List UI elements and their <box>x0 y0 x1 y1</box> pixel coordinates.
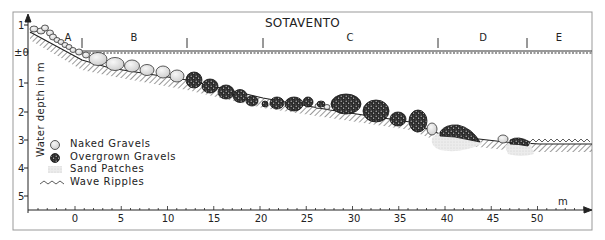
seabed-line <box>30 32 592 144</box>
zone-label-b: B <box>131 32 138 43</box>
x-tick-label: 10 <box>162 213 175 224</box>
zone-label-d: D <box>479 32 487 43</box>
x-tick-label: 25 <box>301 213 314 224</box>
x-tick-label: 45 <box>487 213 500 224</box>
overgrown-gravel-icon <box>51 154 60 163</box>
wave-ripples <box>530 139 590 142</box>
naked-gravels <box>30 25 508 143</box>
x-tick-label: 30 <box>348 213 361 224</box>
beach-profile-diagram: SOTAVENTO A B C D E 1 ±0 1 2 3 4 5 Water… <box>0 0 605 240</box>
water-surface <box>82 51 592 53</box>
figure-frame <box>13 12 592 230</box>
legend-label-wave-ripples: Wave Ripples <box>70 176 144 187</box>
y-tick-label: 1 <box>18 20 24 31</box>
x-axis-unit: m <box>558 196 568 207</box>
diagram-canvas <box>0 0 605 240</box>
y-tick-label: ±0 <box>14 47 29 58</box>
y-tick-label: 5 <box>18 191 24 202</box>
naked-gravel-icon <box>51 141 60 150</box>
x-axis-minor-ticks <box>38 206 584 210</box>
legend-label-overgrown-gravels: Overgrown Gravels <box>70 151 176 162</box>
x-tick-label: 5 <box>118 213 124 224</box>
y-axis <box>24 14 31 213</box>
overgrown-gravels <box>186 72 530 146</box>
sand-patch-icon <box>48 166 62 173</box>
seabed-hatch <box>30 32 592 152</box>
x-tick-label: 40 <box>441 213 454 224</box>
zone-dividers <box>82 38 527 48</box>
x-tick-label: 15 <box>208 213 221 224</box>
y-axis-label: Water depth in m <box>35 60 46 160</box>
figure-title: SOTAVENTO <box>0 16 605 30</box>
x-tick-label: 50 <box>531 213 544 224</box>
x-tick-label: 0 <box>72 213 78 224</box>
y-tick-label: 2 <box>18 107 24 118</box>
legend-label-naked-gravels: Naked Gravels <box>70 138 151 149</box>
y-tick-label: 1 <box>18 78 24 89</box>
zone-label-c: C <box>347 32 354 43</box>
wave-ripple-icon <box>40 181 64 184</box>
y-tick-label: 3 <box>18 135 24 146</box>
legend-label-sand-patches: Sand Patches <box>70 163 144 174</box>
x-tick-label: 35 <box>394 213 407 224</box>
zone-label-e: E <box>556 32 562 43</box>
x-tick-label: 20 <box>255 213 268 224</box>
zone-label-a: A <box>65 32 72 43</box>
y-tick-label: 4 <box>18 163 24 174</box>
